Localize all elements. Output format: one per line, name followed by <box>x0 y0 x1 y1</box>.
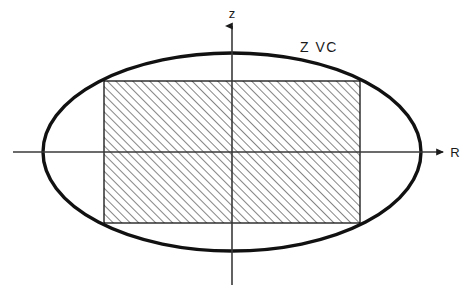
diagram-canvas: z R Z VC <box>0 0 473 287</box>
figure-root: z R Z VC <box>0 0 473 287</box>
zvc-curve-label: Z VC <box>300 39 338 55</box>
z-axis-label: z <box>229 6 236 21</box>
r-axis-label: R <box>450 145 459 160</box>
